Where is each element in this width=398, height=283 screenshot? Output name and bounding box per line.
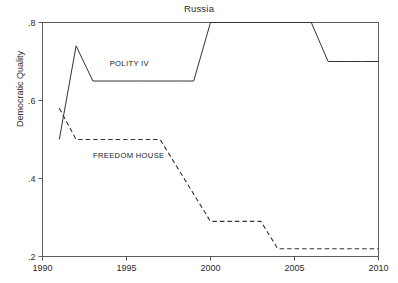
x-tick-label: 2010 <box>368 263 388 273</box>
series-annotations: POLITY IVFREEDOM HOUSE <box>93 59 165 160</box>
y-tick-label: .6 <box>28 96 36 106</box>
y-tick-label: .8 <box>28 18 36 28</box>
axes <box>43 23 379 257</box>
chart-figure: Russia Democratic Quality .2.4.6.8 19901… <box>0 0 398 283</box>
series-line-polity-iv <box>59 23 378 140</box>
data-series <box>59 23 378 249</box>
x-tick-labels: 19901995200020052010 <box>32 263 388 273</box>
y-tick-label: .2 <box>28 252 36 262</box>
x-tick-label: 1995 <box>116 263 136 273</box>
tick-marks <box>39 23 379 261</box>
plot-frame <box>43 23 379 257</box>
x-tick-label: 2000 <box>200 263 220 273</box>
y-tick-label: .4 <box>28 174 36 184</box>
plot-area: .2.4.6.8 19901995200020052010 POLITY IVF… <box>0 0 398 283</box>
y-tick-labels: .2.4.6.8 <box>28 18 36 262</box>
series-label-polity-iv: POLITY IV <box>110 59 150 68</box>
x-tick-label: 2005 <box>284 263 304 273</box>
series-label-freedom-house: FREEDOM HOUSE <box>93 151 165 160</box>
x-tick-label: 1990 <box>32 263 52 273</box>
series-line-freedom-house <box>59 108 378 248</box>
